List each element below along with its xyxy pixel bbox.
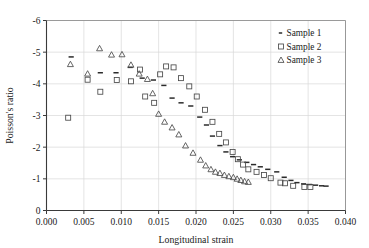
- data-point-square: [128, 79, 133, 84]
- data-point-square: [164, 64, 169, 69]
- y-tick-label: -4: [33, 79, 41, 89]
- data-point-square: [194, 94, 199, 99]
- data-point-square: [210, 119, 215, 124]
- x-tick-label: 0.020: [185, 217, 207, 227]
- chart-svg: 0.0000.0050.0100.0150.0200.0250.0300.035…: [0, 0, 369, 248]
- y-axis-ticks-group: -6-5-4-3-2-10: [33, 16, 47, 216]
- data-point-triangle: [169, 125, 175, 130]
- data-point-triangle: [97, 45, 103, 50]
- data-point-square: [308, 185, 313, 190]
- y-tick-label: 0: [36, 206, 41, 216]
- data-point-square: [246, 167, 251, 172]
- legend-label: Sample 1: [287, 28, 322, 38]
- data-point-square: [262, 173, 267, 178]
- x-tick-label: 0.015: [148, 217, 170, 227]
- y-tick-label: -2: [33, 143, 41, 153]
- y-tick-label: -1: [33, 174, 41, 184]
- y-tick-label: -3: [33, 111, 41, 121]
- x-tick-label: 0.005: [73, 217, 95, 227]
- data-series-layer: [66, 45, 329, 189]
- data-point-triangle: [144, 76, 150, 81]
- data-point-triangle: [162, 119, 168, 124]
- data-point-triangle: [197, 157, 203, 162]
- x-tick-label: 0.030: [260, 217, 282, 227]
- data-point-square: [98, 89, 103, 94]
- data-point-square: [66, 115, 71, 120]
- series-3: [67, 45, 251, 184]
- legend-marker-triangle: [278, 57, 284, 62]
- x-tick-label: 0.040: [335, 217, 357, 227]
- legend-label: Sample 2: [287, 42, 322, 52]
- x-tick-label: 0.025: [223, 217, 245, 227]
- legend-marker-square: [279, 44, 284, 49]
- data-point-square: [171, 65, 176, 70]
- data-point-square: [202, 107, 207, 112]
- data-point-triangle: [190, 150, 196, 155]
- data-point-square: [187, 84, 192, 89]
- poissons-ratio-scatter-chart: 0.0000.0050.0100.0150.0200.0250.0300.035…: [0, 0, 369, 248]
- data-point-triangle: [67, 61, 73, 66]
- y-axis-title: Poisson's ratio: [4, 87, 15, 144]
- series-2: [66, 64, 313, 190]
- chart-legend: Sample 1Sample 2Sample 3: [278, 28, 322, 65]
- data-point-square: [254, 169, 259, 174]
- data-point-triangle: [85, 71, 91, 76]
- x-axis-title: Longitudinal strain: [159, 234, 234, 245]
- x-tick-label: 0.000: [36, 217, 58, 227]
- data-point-square: [114, 78, 119, 83]
- data-point-square: [291, 183, 296, 188]
- data-point-square: [302, 185, 307, 190]
- data-point-square: [85, 77, 90, 82]
- series-1: [69, 57, 329, 186]
- data-point-square: [217, 131, 222, 136]
- data-point-triangle: [128, 62, 134, 67]
- y-tick-label: -6: [33, 16, 41, 26]
- data-point-square: [223, 140, 228, 145]
- y-tick-label: -5: [33, 48, 41, 58]
- data-point-square: [143, 94, 148, 99]
- data-point-triangle: [203, 163, 209, 168]
- legend-label: Sample 3: [287, 55, 322, 65]
- data-point-square: [230, 149, 235, 154]
- data-point-triangle: [208, 166, 214, 171]
- x-axis-ticks-group: 0.0000.0050.0100.0150.0200.0250.0300.035…: [36, 211, 357, 227]
- data-point-square: [152, 100, 157, 105]
- data-point-square: [179, 76, 184, 81]
- data-point-triangle: [150, 90, 156, 95]
- x-tick-label: 0.035: [297, 217, 319, 227]
- x-tick-label: 0.010: [111, 217, 133, 227]
- data-point-triangle: [176, 132, 182, 137]
